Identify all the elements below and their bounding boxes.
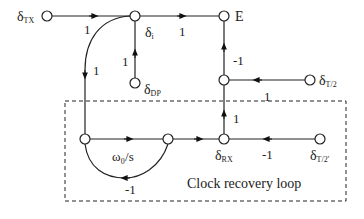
gain-t2p-rx: -1 bbox=[262, 147, 273, 162]
gain-mid-e: -1 bbox=[233, 53, 244, 68]
edge-i-loop bbox=[85, 16, 130, 134]
signal-flow-diagram: δTX δi E δDP δT/2 δRX δT/2' 1 1 1 1 -1 1… bbox=[0, 0, 364, 219]
label-tx: δTX bbox=[17, 9, 34, 25]
gain-i-e: 1 bbox=[179, 24, 186, 39]
node-i bbox=[130, 11, 140, 21]
label-rx: δRX bbox=[215, 148, 233, 164]
label-t2p: δT/2' bbox=[310, 148, 330, 164]
node-t2p bbox=[315, 134, 325, 144]
label-e: E bbox=[235, 9, 244, 24]
node-mid bbox=[219, 75, 229, 85]
node-e bbox=[219, 11, 229, 21]
gain-i-loop: 1 bbox=[93, 63, 100, 78]
node-loop-in bbox=[80, 134, 90, 144]
gain-rx-mid: 1 bbox=[233, 111, 240, 126]
gain-t2-mid: 1 bbox=[264, 89, 271, 104]
label-i: δi bbox=[145, 25, 155, 41]
node-dp bbox=[130, 78, 140, 88]
node-tx bbox=[42, 11, 52, 21]
node-t2 bbox=[305, 75, 315, 85]
gain-integrator: ω₀/s bbox=[112, 149, 134, 164]
node-integrator-out bbox=[163, 134, 173, 144]
gain-tx-i: 1 bbox=[84, 22, 91, 37]
label-dp: δDP bbox=[144, 82, 161, 98]
box-label: Clock recovery loop bbox=[187, 176, 301, 191]
node-rx bbox=[219, 134, 229, 144]
gain-dp-i: 1 bbox=[122, 54, 129, 69]
label-t2: δT/2 bbox=[319, 73, 337, 89]
gain-feedback: -1 bbox=[125, 182, 136, 197]
